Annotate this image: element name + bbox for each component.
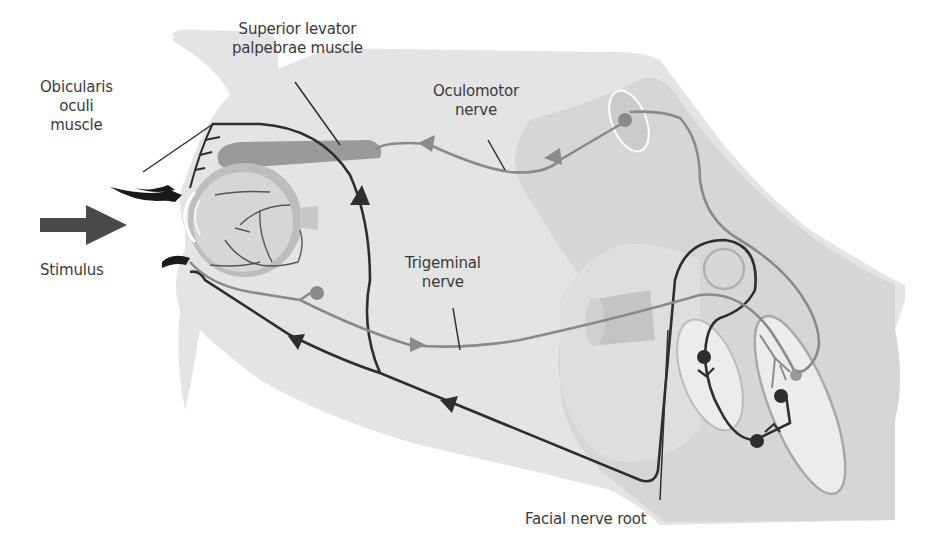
label-line: nerve [433, 101, 519, 120]
label-facial-nerve-root: Facial nerve root [525, 510, 646, 529]
label-line: oculi [40, 97, 113, 116]
label-line: Oculomotor [433, 82, 519, 101]
label-line: Trigeminal [405, 254, 481, 273]
stimulus-arrow [40, 205, 127, 245]
label-superior-levator: Superior levator palpebrae muscle [232, 20, 363, 58]
trigeminal-cell [310, 286, 324, 300]
oculomotor-cell [618, 113, 632, 127]
label-line: Superior levator [232, 20, 363, 39]
label-line: muscle [40, 116, 113, 135]
label-trigeminal: Trigeminal nerve [405, 254, 481, 292]
label-line: palpebrae muscle [232, 39, 363, 58]
label-line: Obicularis [40, 78, 113, 97]
label-stimulus: Stimulus [40, 261, 104, 280]
label-line: nerve [405, 273, 481, 292]
label-obicularis: Obicularis oculi muscle [40, 78, 113, 135]
label-oculomotor: Oculomotor nerve [433, 82, 519, 120]
